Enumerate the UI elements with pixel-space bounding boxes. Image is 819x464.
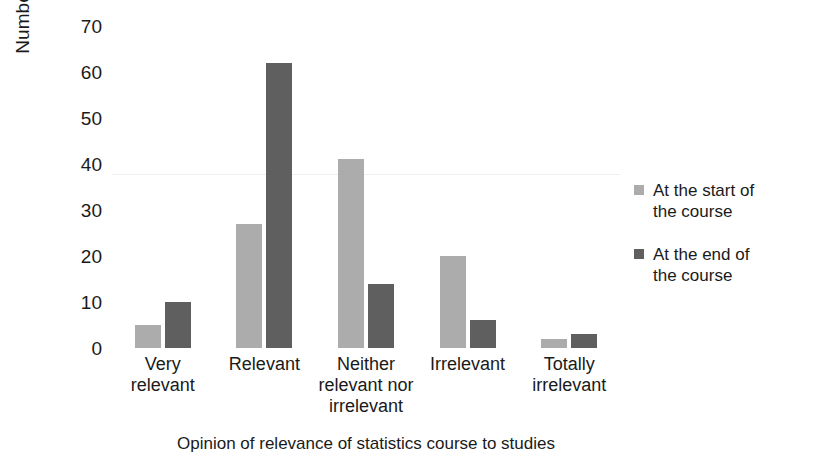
x-axis-title: Opinion of relevance of statistics cours…	[60, 434, 672, 454]
legend-label-line: At the end of	[653, 244, 749, 265]
y-tick-50: 50	[62, 108, 102, 127]
y-tick-20: 20	[62, 247, 102, 266]
legend-label-line: the course	[653, 201, 754, 222]
legend-swatch-start	[634, 185, 644, 195]
bar-start-totally-irrelevant	[541, 339, 567, 348]
bar-start-relevant	[236, 224, 262, 348]
x-tick-line: Very	[114, 354, 212, 375]
bar-group-neither	[315, 26, 417, 348]
x-tick-line: relevant	[114, 375, 212, 396]
y-tick-70: 70	[62, 17, 102, 36]
bar-group-very-relevant	[112, 26, 214, 348]
y-axis-title: Number of students	[8, 0, 38, 90]
bar-group-relevant	[214, 26, 316, 348]
y-tick-30: 30	[62, 200, 102, 219]
bar-start-neither	[338, 159, 364, 348]
x-tick-line: irrelevant	[317, 396, 415, 417]
x-tick-irrelevant: Irrelevant	[417, 354, 519, 417]
y-tick-10: 10	[62, 292, 102, 311]
bar-series-container	[112, 26, 620, 348]
legend-entry-start: At the start of the course	[634, 180, 814, 222]
bar-group-irrelevant	[417, 26, 519, 348]
x-tick-line: Relevant	[216, 354, 314, 375]
legend-label-line: the course	[653, 265, 749, 286]
bar-end-irrelevant	[470, 320, 496, 348]
legend-swatch-end	[634, 249, 644, 259]
legend-label-end: At the end of the course	[653, 244, 749, 286]
y-tick-60: 60	[62, 63, 102, 82]
y-tick-40: 40	[62, 155, 102, 174]
x-tick-line: Irrelevant	[419, 354, 517, 375]
x-tick-relevant: Relevant	[214, 354, 316, 417]
x-tick-very-relevant: Very relevant	[112, 354, 214, 417]
bar-end-neither	[368, 284, 394, 348]
y-tick-0: 0	[62, 339, 102, 358]
x-tick-neither: Neither relevant nor irrelevant	[315, 354, 417, 417]
x-tick-line: irrelevant	[520, 375, 618, 396]
bar-chart-figure: Number of students 70 60 50 40 30 20 10 …	[0, 0, 819, 464]
legend-label-start: At the start of the course	[653, 180, 754, 222]
chart-legend: At the start of the course At the end of…	[634, 180, 814, 308]
bar-end-totally-irrelevant	[571, 334, 597, 348]
bar-group-totally-irrelevant	[518, 26, 620, 348]
legend-label-line: At the start of	[653, 180, 754, 201]
bar-start-very-relevant	[135, 325, 161, 348]
plot-area: 70 60 50 40 30 20 10 0	[112, 26, 620, 348]
bar-start-irrelevant	[440, 256, 466, 348]
x-tick-totally-irrelevant: Totally irrelevant	[518, 354, 620, 417]
bar-end-relevant	[266, 63, 292, 348]
x-tick-line: Neither	[317, 354, 415, 375]
x-tick-line: Totally	[520, 354, 618, 375]
legend-entry-end: At the end of the course	[634, 244, 814, 286]
x-tick-line: relevant nor	[317, 375, 415, 396]
x-axis-tick-labels: Very relevant Relevant Neither relevant …	[112, 354, 620, 417]
bar-end-very-relevant	[165, 302, 191, 348]
